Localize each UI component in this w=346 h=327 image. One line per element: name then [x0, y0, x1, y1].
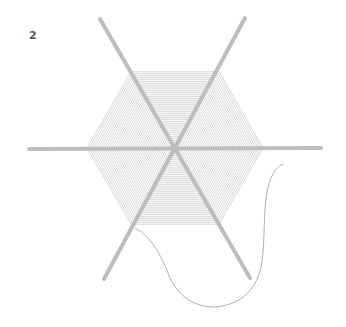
- hexagon-weave-illustration: [0, 0, 346, 327]
- loose-thread: [135, 164, 284, 307]
- sticks: [29, 18, 321, 279]
